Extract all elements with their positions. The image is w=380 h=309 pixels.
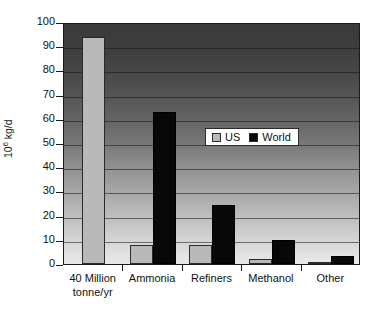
bar-world-ammonia [153,112,176,264]
y-tick-mark [56,168,63,169]
y-tick-label: 50 [15,136,55,148]
y-axis-title: 106 kg/d [2,78,14,158]
x-tick-label-line: Other [288,271,373,285]
legend-swatch-us-icon [212,133,221,142]
y-tick-mark [56,71,63,72]
y-tick-label: 70 [15,88,55,100]
y-tick-mark [56,47,63,48]
y-tick-label: 40 [15,160,55,172]
bar-us-refiners [189,245,212,264]
y-tick-mark [56,23,63,24]
x-tick-label-line: tonne/yr [50,285,135,299]
bar-us-other [308,262,331,264]
y-tick-mark [56,144,63,145]
bar-world-refiners [212,205,235,264]
y-tick-mark [56,265,63,266]
y-tick-mark [56,241,63,242]
y-tick-mark [56,192,63,193]
legend-entry-world: World [249,131,291,143]
bar-us-ammonia [130,245,153,264]
y-tick-mark [56,96,63,97]
x-tick-label: Other [288,271,373,285]
bar-us-methanol [249,259,272,264]
bar-us-40-million-tonne-yr [82,37,105,264]
bar-group [302,24,360,264]
y-axis-title-base: 10 [2,146,14,158]
y-tick-label: 0 [15,257,55,269]
y-tick-mark [56,120,63,121]
legend-label-world: World [262,131,291,143]
y-tick-label: 100 [15,15,55,27]
y-axis-title-exponent: 6 [1,142,10,146]
bar-group [64,24,123,264]
y-tick-label: 90 [15,39,55,51]
legend-swatch-world-icon [249,133,258,142]
y-tick-label: 20 [15,209,55,221]
y-tick-mark [56,217,63,218]
bar-chart: 106 kg/d 0102030405060708090100 40 Milli… [0,0,380,309]
y-tick-label: 60 [15,112,55,124]
bar-world-methanol [272,240,295,264]
y-axis-title-unit: kg/d [2,119,14,142]
legend: US World [205,128,299,146]
bar-world-other [331,256,354,264]
legend-label-us: US [225,131,240,143]
y-tick-label: 30 [15,184,55,196]
legend-entry-us: US [212,131,240,143]
y-tick-label: 10 [15,233,55,245]
bar-group [123,24,182,264]
y-tick-label: 80 [15,63,55,75]
